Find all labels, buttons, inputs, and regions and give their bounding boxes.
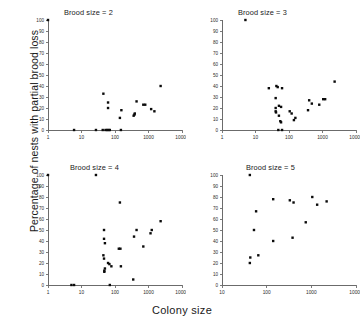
- data-point: [109, 129, 111, 131]
- svg-text:100: 100: [111, 290, 119, 295]
- svg-text:70: 70: [213, 51, 219, 56]
- scatter-plot: 010203040506070809010010100100010000: [200, 163, 360, 303]
- svg-text:10: 10: [79, 135, 85, 140]
- data-point: [308, 99, 310, 101]
- data-point: [316, 204, 318, 206]
- svg-text:40: 40: [213, 84, 219, 89]
- svg-text:50: 50: [39, 73, 45, 78]
- svg-text:100: 100: [111, 135, 119, 140]
- data-point: [290, 112, 292, 114]
- data-point: [249, 174, 251, 176]
- data-point: [268, 87, 270, 89]
- data-point: [324, 98, 326, 100]
- data-point: [47, 174, 49, 176]
- data-point: [253, 229, 255, 231]
- data-point: [102, 254, 104, 256]
- svg-text:40: 40: [39, 239, 45, 244]
- panel-title: Brood size = 2: [64, 8, 113, 17]
- panel-title: Brood size = 4: [70, 163, 119, 172]
- data-point: [274, 107, 276, 109]
- svg-text:90: 90: [213, 29, 219, 34]
- svg-text:100: 100: [263, 290, 271, 295]
- data-point: [95, 174, 97, 176]
- data-point: [132, 278, 134, 280]
- data-point: [107, 101, 109, 103]
- data-point: [95, 129, 97, 131]
- svg-text:80: 80: [39, 195, 45, 200]
- svg-text:10: 10: [213, 117, 219, 122]
- data-point: [292, 201, 294, 203]
- svg-text:80: 80: [39, 40, 45, 45]
- data-point: [255, 210, 257, 212]
- data-point: [108, 263, 110, 265]
- svg-text:100: 100: [285, 135, 293, 140]
- svg-text:50: 50: [213, 73, 219, 78]
- data-point: [119, 117, 121, 119]
- svg-text:1: 1: [47, 290, 50, 295]
- data-point: [103, 238, 105, 240]
- data-point: [103, 257, 105, 259]
- svg-text:20: 20: [39, 261, 45, 266]
- data-point: [159, 220, 161, 222]
- svg-text:90: 90: [213, 184, 219, 189]
- svg-text:50: 50: [213, 228, 219, 233]
- data-point: [244, 19, 246, 21]
- svg-text:90: 90: [39, 184, 45, 189]
- data-point: [274, 97, 276, 99]
- svg-text:10: 10: [253, 135, 259, 140]
- data-point: [305, 221, 307, 223]
- svg-text:1: 1: [47, 135, 50, 140]
- svg-text:70: 70: [213, 206, 219, 211]
- data-point: [159, 85, 161, 87]
- svg-text:1000: 1000: [143, 290, 154, 295]
- svg-text:10000: 10000: [349, 290, 360, 295]
- data-point: [278, 115, 280, 117]
- svg-text:100: 100: [36, 18, 44, 23]
- svg-text:10: 10: [213, 272, 219, 277]
- panel-brood-size-3: Brood size = 3 0102030405060708090100110…: [200, 8, 360, 148]
- scatter-plot: 0102030405060708090100110100100010000: [200, 8, 360, 148]
- scatter-plot: 0102030405060708090100110100100010000: [26, 163, 186, 303]
- data-point: [144, 104, 146, 106]
- data-point: [277, 129, 279, 131]
- data-point: [333, 80, 335, 82]
- data-point: [119, 201, 121, 203]
- svg-text:80: 80: [213, 195, 219, 200]
- data-point: [278, 105, 280, 107]
- data-point: [104, 267, 106, 269]
- panel-title: Brood size = 5: [246, 163, 295, 172]
- data-point: [272, 198, 274, 200]
- svg-text:60: 60: [39, 62, 45, 67]
- data-point: [272, 240, 274, 242]
- data-point: [110, 265, 112, 267]
- data-point: [135, 100, 137, 102]
- svg-text:10: 10: [39, 117, 45, 122]
- data-point: [102, 93, 104, 95]
- svg-text:60: 60: [213, 62, 219, 67]
- panel-brood-size-2: Brood size = 2 0102030405060708090100110…: [26, 8, 186, 148]
- svg-text:30: 30: [213, 250, 219, 255]
- svg-text:20: 20: [213, 261, 219, 266]
- scatter-plot: 0102030405060708090100110100100010000: [26, 8, 186, 148]
- data-point: [325, 200, 327, 202]
- data-point: [293, 119, 295, 121]
- data-point: [281, 129, 283, 131]
- data-point: [249, 256, 251, 258]
- svg-text:10: 10: [79, 290, 85, 295]
- data-point: [104, 242, 106, 244]
- svg-text:100: 100: [36, 173, 44, 178]
- svg-text:40: 40: [39, 84, 45, 89]
- data-point: [134, 112, 136, 114]
- svg-text:1: 1: [221, 135, 224, 140]
- svg-text:0: 0: [215, 128, 218, 133]
- svg-text:10000: 10000: [175, 290, 186, 295]
- data-point: [275, 111, 277, 113]
- data-point: [120, 129, 122, 131]
- data-point: [289, 110, 291, 112]
- svg-text:1000: 1000: [306, 290, 317, 295]
- data-point: [311, 196, 313, 198]
- svg-text:60: 60: [213, 217, 219, 222]
- panel-brood-size-5: Brood size = 5 0102030405060708090100101…: [200, 163, 360, 303]
- svg-text:0: 0: [41, 283, 44, 288]
- data-point: [249, 262, 251, 264]
